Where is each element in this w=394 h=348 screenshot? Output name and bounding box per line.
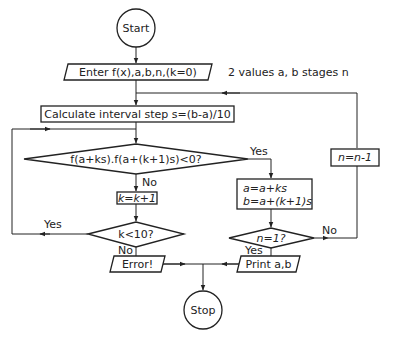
error-label: Error! xyxy=(122,258,153,271)
update-b-label: b=a+(k+1)s xyxy=(243,195,312,208)
calc-label: Calculate interval step s=(b-a)/10 xyxy=(44,108,231,121)
start-terminal: Start xyxy=(117,9,155,47)
stop-label: Stop xyxy=(190,304,215,317)
print-output-node: Print a,b xyxy=(237,256,300,272)
update-ab-process-node: a=a+ks b=a+(k+1)s xyxy=(237,179,312,209)
test-sign-no-label: No xyxy=(142,176,157,189)
enter-label: Enter f(x),a,b,n,(k=0) xyxy=(79,66,197,79)
dec-n-process-node: n=n-1 xyxy=(331,149,379,166)
stop-terminal: Stop xyxy=(184,291,222,329)
test-n-no-label: No xyxy=(322,224,337,237)
calc-process-node: Calculate interval step s=(b-a)/10 xyxy=(41,106,234,122)
test-k-yes-label: Yes xyxy=(43,218,62,231)
inc-k-process-node: k=k+1 xyxy=(117,192,157,205)
test-sign-decision: f(a+ks).f(a+(k+1)s)<0? xyxy=(24,144,248,174)
test-sign-label: f(a+ks).f(a+(k+1)s)<0? xyxy=(70,153,202,166)
test-k-no-label: No xyxy=(118,244,133,257)
print-label: Print a,b xyxy=(245,258,291,271)
start-label: Start xyxy=(123,22,151,35)
dec-n-label: n=n-1 xyxy=(338,151,372,164)
test-k-decision: k<10? xyxy=(88,222,184,247)
update-a-label: a=a+ks xyxy=(243,182,287,195)
enter-input-node: Enter f(x),a,b,n,(k=0) xyxy=(64,64,212,80)
enter-note: 2 values a, b stages n xyxy=(228,66,349,79)
connectors xyxy=(12,47,357,290)
test-n-decision: n=1? xyxy=(229,228,314,248)
inc-k-label: k=k+1 xyxy=(118,192,156,205)
test-k-label: k<10? xyxy=(118,228,154,241)
edge-test-sign-yes xyxy=(248,159,271,178)
test-sign-yes-label: Yes xyxy=(249,145,268,158)
test-n-yes-label: Yes xyxy=(244,244,263,257)
flowchart: Start Enter f(x),a,b,n,(k=0) 2 values a,… xyxy=(0,0,394,348)
error-output-node: Error! xyxy=(110,256,165,272)
